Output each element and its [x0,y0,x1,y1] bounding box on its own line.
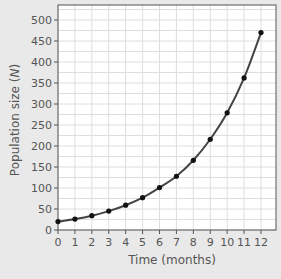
x-tick-label: 11 [237,236,251,249]
x-tick-label: 1 [71,236,78,249]
x-tick-label: 0 [55,236,62,249]
y-tick-label: 250 [31,119,52,132]
data-point [157,185,162,190]
data-point [89,213,94,218]
data-point [106,209,111,214]
y-tick-label: 300 [31,98,52,111]
data-point [55,219,60,224]
x-tick-label: 3 [105,236,112,249]
data-point [208,137,213,142]
x-tick-label: 9 [207,236,214,249]
x-tick-label: 6 [156,236,163,249]
y-axis-label: Population size (N) [8,64,22,176]
data-point [123,203,128,208]
x-tick-label: 8 [190,236,197,249]
y-tick-label: 50 [38,203,52,216]
x-tick-label: 7 [173,236,180,249]
y-tick-label: 350 [31,77,52,90]
x-tick-label: 4 [122,236,129,249]
data-point [174,174,179,179]
data-point [241,75,246,80]
x-tick-label: 5 [139,236,146,249]
y-tick-label: 150 [31,161,52,174]
data-point [225,110,230,115]
exponential-growth-chart: 0123456789101112 05010015020025030035040… [0,0,281,279]
plot-area [58,5,276,230]
y-tick-label: 100 [31,182,52,195]
y-tick-label: 400 [31,56,52,69]
data-point [72,216,77,221]
data-point [191,158,196,163]
y-tick-label: 200 [31,140,52,153]
x-tick-label: 2 [88,236,95,249]
y-tick-label: 500 [31,14,52,27]
x-axis-ticks: 0123456789101112 [55,230,269,249]
data-point [258,30,263,35]
x-tick-label: 12 [254,236,268,249]
x-axis-label: Time (months) [127,253,216,267]
y-tick-label: 0 [45,224,52,237]
x-tick-label: 10 [220,236,234,249]
y-tick-label: 450 [31,35,52,48]
y-axis-ticks: 050100150200250300350400450500 [31,14,58,237]
data-point [140,195,145,200]
